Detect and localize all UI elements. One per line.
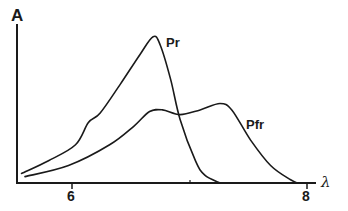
y-axis-label: A [11,6,23,26]
series-label-pfr: Pfr [246,117,264,132]
pfr-curve [25,104,298,184]
x-tick-label-8: 8 [302,188,310,204]
x-tick-label-6: 6 [67,188,75,204]
x-axis-label: λ [321,173,331,191]
absorption-spectrum-chart [0,0,348,211]
pr-curve [22,36,221,183]
series-label-pr: Pr [166,35,180,50]
